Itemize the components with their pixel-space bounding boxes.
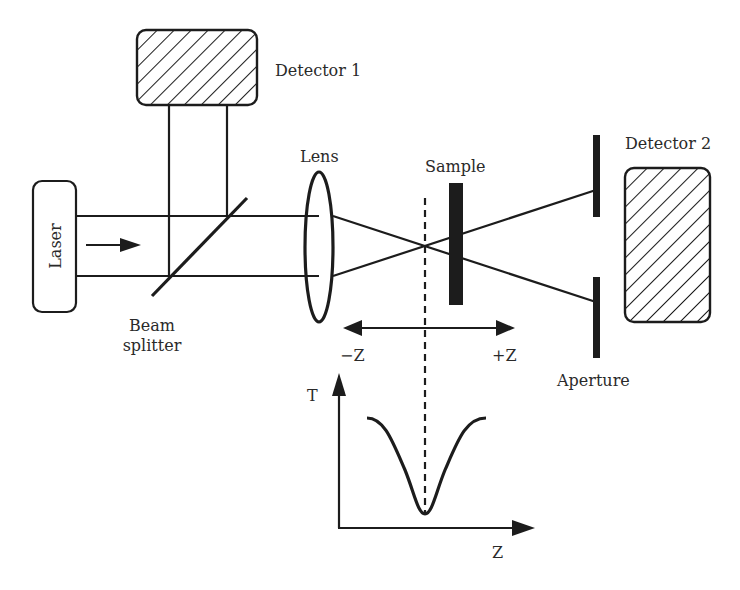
sample-label: Sample — [425, 157, 486, 176]
transmittance-plot: T Z — [307, 373, 535, 562]
sample: Sample — [425, 157, 486, 305]
x-axis-arrow-icon — [512, 520, 535, 536]
plus-z-label: +Z — [492, 346, 517, 365]
focused-beam — [333, 190, 596, 302]
detector-2-label: Detector 2 — [625, 134, 711, 153]
beam-splitter — [152, 198, 247, 296]
beam-splitter-label-line2: splitter — [123, 336, 182, 355]
detector-1-box — [137, 30, 257, 105]
sample-bar — [449, 183, 463, 305]
transmittance-curve — [367, 418, 486, 514]
aperture: Aperture — [556, 135, 630, 390]
aperture-label: Aperture — [556, 371, 630, 390]
z-scan-diagram: Laser Beam splitter Detector 1 Lens Samp… — [0, 0, 740, 590]
lens-label: Lens — [300, 147, 339, 166]
arrow-left-icon — [343, 320, 362, 336]
arrow-right-icon — [496, 320, 515, 336]
plot-x-label: Z — [492, 543, 503, 562]
lens-ellipse — [305, 172, 333, 322]
beam-splitter-label-line1: Beam — [129, 316, 175, 335]
beam-splitter-label: Beam splitter — [123, 316, 182, 355]
detector-2-box — [625, 168, 710, 322]
aperture-upper — [593, 135, 600, 217]
z-scan-arrow: −Z +Z — [340, 320, 517, 365]
aperture-lower — [593, 277, 600, 358]
plot-y-label: T — [307, 386, 318, 405]
beam-direction-arrow-icon — [86, 238, 141, 252]
detector-1: Detector 1 — [137, 30, 361, 105]
detector-1-label: Detector 1 — [275, 61, 361, 80]
laser: Laser — [33, 181, 76, 312]
detector-2: Detector 2 — [625, 134, 711, 322]
y-axis-arrow-icon — [332, 373, 346, 396]
laser-label: Laser — [46, 223, 65, 269]
lens: Lens — [300, 147, 339, 322]
minus-z-label: −Z — [340, 346, 365, 365]
